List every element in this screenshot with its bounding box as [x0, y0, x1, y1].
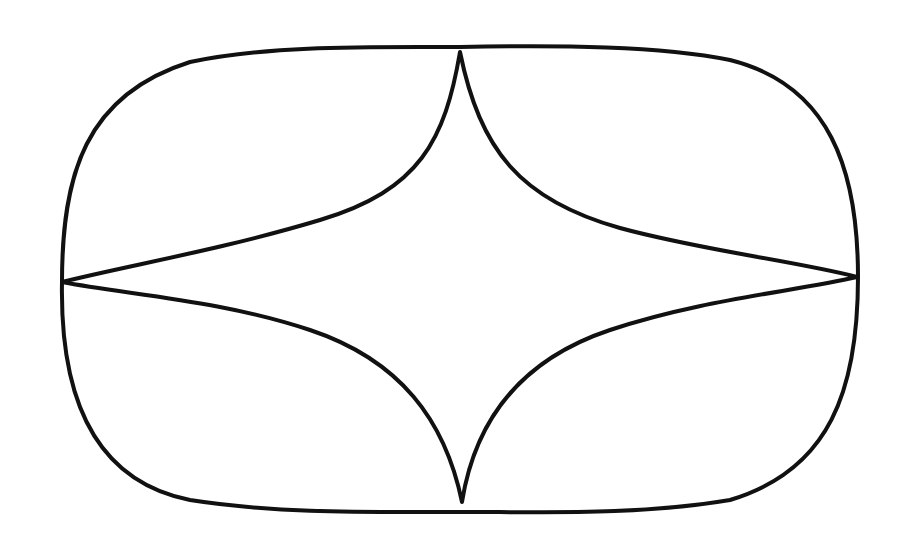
diagram-canvas — [0, 0, 910, 551]
outer-oval — [62, 46, 858, 512]
inner-star — [62, 52, 857, 502]
